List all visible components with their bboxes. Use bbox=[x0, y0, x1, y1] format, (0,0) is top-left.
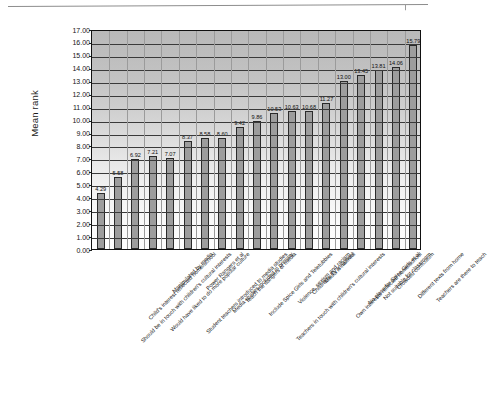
y-axis-tick-label: 14.00 bbox=[56, 65, 90, 72]
x-axis-category-label: Would have liked to do more popular cult… bbox=[169, 251, 251, 333]
category-separator bbox=[127, 31, 128, 249]
category-separator bbox=[266, 31, 267, 249]
bar-slot: 11.27 bbox=[318, 31, 335, 249]
category-separator bbox=[196, 31, 197, 249]
bar-slot: 13.00 bbox=[335, 31, 352, 249]
y-axis-tick-label: 12.00 bbox=[56, 91, 90, 98]
bar-value-label: 9.86 bbox=[252, 114, 263, 120]
y-axis-tick-label: 2.00 bbox=[56, 221, 90, 228]
category-separator bbox=[231, 31, 232, 249]
category-separator bbox=[144, 31, 145, 249]
y-axis-tick-label: 4.00 bbox=[56, 195, 90, 202]
x-axis-category-label: Should be in touch with children's cultu… bbox=[139, 251, 232, 344]
category-separator bbox=[161, 31, 162, 249]
bar[interactable] bbox=[166, 158, 174, 249]
y-axis-tick-label: 17.00 bbox=[56, 27, 90, 34]
bar-slot: 9.86 bbox=[248, 31, 265, 249]
bar[interactable] bbox=[184, 141, 192, 249]
y-axis-tick-label: 15.00 bbox=[56, 52, 90, 59]
category-separator bbox=[353, 31, 354, 249]
bar-chart: Mean rank 17.0016.0015.0014.0013.0012.00… bbox=[0, 12, 433, 392]
bar[interactable] bbox=[340, 81, 348, 249]
category-separator bbox=[387, 31, 388, 249]
category-separator bbox=[300, 31, 301, 249]
bar[interactable] bbox=[149, 156, 157, 249]
bar[interactable] bbox=[322, 103, 330, 249]
bar[interactable] bbox=[270, 113, 278, 249]
bar[interactable] bbox=[97, 193, 105, 249]
y-axis-tick-label: 1.00 bbox=[56, 234, 90, 241]
category-separator bbox=[214, 31, 215, 249]
category-separator bbox=[318, 31, 319, 249]
bar-slot: 10.63 bbox=[283, 31, 300, 249]
bar[interactable] bbox=[288, 111, 296, 249]
y-axis-tick-label: 10.00 bbox=[56, 117, 90, 124]
y-axis-tick-label: 5.00 bbox=[56, 182, 90, 189]
bar-value-label: 6.92 bbox=[130, 152, 141, 158]
y-axis-tick-label: 8.00 bbox=[56, 143, 90, 150]
y-axis-tick-label: 9.00 bbox=[56, 130, 90, 137]
bar-value-label: 4.29 bbox=[95, 186, 106, 192]
bar-slot: 6.92 bbox=[127, 31, 144, 249]
bar[interactable] bbox=[201, 138, 209, 249]
bar-slot: 15.79 bbox=[405, 31, 421, 249]
x-axis-line bbox=[91, 249, 421, 250]
bar[interactable] bbox=[305, 111, 313, 249]
bar-slot: 10.68 bbox=[300, 31, 317, 249]
category-separator bbox=[109, 31, 110, 249]
y-axis-tick-label: 6.00 bbox=[56, 169, 90, 176]
y-axis-tick-label: 7.00 bbox=[56, 156, 90, 163]
bar-value-label: 14.06 bbox=[389, 60, 403, 66]
bar-value-label: 13.00 bbox=[337, 74, 351, 80]
bar-slot: 7.21 bbox=[144, 31, 161, 249]
bar[interactable] bbox=[253, 121, 261, 249]
bar-slot: 9.42 bbox=[231, 31, 248, 249]
bar-slot: 13.81 bbox=[370, 31, 387, 249]
y-axis-tick-label: 0.00 bbox=[56, 247, 90, 254]
category-separator bbox=[179, 31, 180, 249]
plot-area: 4.295.586.927.217.078.378.588.609.429.86… bbox=[91, 30, 421, 250]
bar-slot: 8.37 bbox=[179, 31, 196, 249]
y-axis-ticks: 17.0016.0015.0014.0013.0012.0011.0010.00… bbox=[52, 30, 90, 250]
category-separator bbox=[248, 31, 249, 249]
bar-value-label: 13.81 bbox=[372, 63, 386, 69]
bar-slot: 5.58 bbox=[109, 31, 126, 249]
y-axis-tick-label: 11.00 bbox=[56, 104, 90, 111]
bar-value-label: 11.27 bbox=[320, 96, 334, 102]
bar-slot: 7.07 bbox=[161, 31, 178, 249]
x-axis-labels: Should be in touch with children's cultu… bbox=[91, 251, 421, 391]
bar[interactable] bbox=[392, 67, 400, 249]
y-axis-tick-label: 16.00 bbox=[56, 39, 90, 46]
bar-slot: 14.06 bbox=[387, 31, 404, 249]
category-separator bbox=[283, 31, 284, 249]
bar-slot: 8.60 bbox=[214, 31, 231, 249]
bar-value-label: 7.21 bbox=[147, 149, 158, 155]
bar-slot: 4.29 bbox=[92, 31, 109, 249]
category-separator bbox=[370, 31, 371, 249]
bar[interactable] bbox=[236, 127, 244, 249]
bar-value-label: 7.07 bbox=[165, 151, 176, 157]
y-axis-tick-label: 3.00 bbox=[56, 208, 90, 215]
y-axis-tick-label: 13.00 bbox=[56, 78, 90, 85]
bar-slot: 10.53 bbox=[266, 31, 283, 249]
bar-slot: 8.58 bbox=[196, 31, 213, 249]
bar-value-label: 15.79 bbox=[406, 38, 420, 44]
page-header-tick bbox=[405, 4, 406, 10]
y-axis-title: Mean rank bbox=[29, 54, 40, 174]
bar-slot: 13.45 bbox=[353, 31, 370, 249]
bar[interactable] bbox=[357, 75, 365, 249]
category-separator bbox=[335, 31, 336, 249]
bar[interactable] bbox=[218, 138, 226, 249]
category-separator bbox=[405, 31, 406, 249]
page-header-rule bbox=[8, 4, 428, 7]
